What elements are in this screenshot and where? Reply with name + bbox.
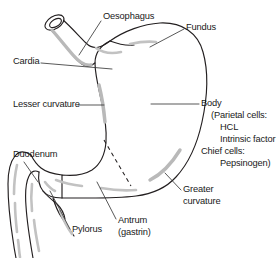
label-duodenum: Duodenum <box>13 149 57 160</box>
label-antrum-line1: Antrum <box>118 215 147 226</box>
label-pepsinogen: Pepsinogen) <box>201 158 271 170</box>
label-oesophagus: Oesophagus <box>103 11 154 22</box>
stomach-body-outline <box>62 23 207 198</box>
label-cardia: Cardia <box>13 56 40 67</box>
highlight-duodenum-2 <box>15 203 17 232</box>
label-greater-curvature-line1: Greater <box>183 184 213 195</box>
highlight-oesophagus <box>52 30 91 65</box>
stomach-anatomy-diagram: Oesophagus Fundus Cardia Lesser curvatur… <box>0 0 279 258</box>
highlight-duodenal-bulb <box>60 211 72 234</box>
pylorus-outline-lower <box>39 172 62 198</box>
oesophagus-wall-right <box>62 19 110 47</box>
highlight-duodenum-inner-2 <box>34 220 39 251</box>
label-antrum-line2: (gastrin) <box>118 227 151 238</box>
label-parietal-cells: (Parietal cells: <box>201 110 267 122</box>
label-hcl: HCL <box>201 122 238 134</box>
leader-duodenum <box>24 162 38 182</box>
label-greater-curvature-line2: curvature <box>183 196 220 207</box>
label-fundus: Fundus <box>186 22 216 33</box>
label-body: Body <box>201 98 222 109</box>
highlight-pyloric-canal <box>45 182 55 191</box>
label-chief-cells: Chief cells: <box>201 146 245 158</box>
highlight-duodenum-1 <box>14 165 17 194</box>
label-lesser-curvature: Lesser curvature <box>13 99 80 110</box>
highlight-duodenum-inner-1 <box>31 184 32 211</box>
label-intrinsic-factor: Intrinsic factor <box>201 134 275 146</box>
highlight-duodenum-3 <box>18 240 20 257</box>
label-pylorus: Pylorus <box>72 224 102 235</box>
